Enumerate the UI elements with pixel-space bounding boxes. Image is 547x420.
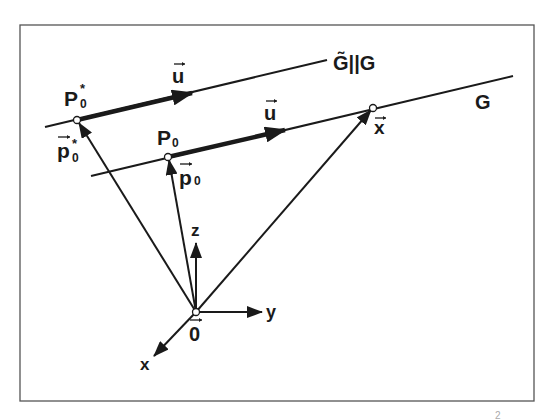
- label-p0: P 0: [157, 126, 179, 150]
- svg-text:x: x: [374, 117, 385, 138]
- svg-text:0: 0: [194, 174, 201, 188]
- svg-text:P: P: [157, 126, 171, 149]
- axis-label-x: x: [140, 355, 150, 374]
- label-vector-p0-star: p 0 *: [57, 135, 79, 165]
- svg-text:G̃||G: G̃||G: [333, 51, 375, 74]
- label-u-lower: u: [264, 99, 277, 124]
- svg-text:p: p: [179, 166, 192, 189]
- svg-text:u: u: [172, 65, 184, 87]
- direction-vector-u-upper: [77, 93, 192, 120]
- svg-text:u: u: [264, 102, 276, 124]
- label-g-tilde-parallel-g: G̃||G: [333, 51, 375, 74]
- point-x: [370, 105, 377, 112]
- point-p0: [165, 154, 172, 161]
- svg-text:0: 0: [189, 323, 200, 345]
- svg-text:*: *: [72, 136, 78, 151]
- svg-text:*: *: [80, 81, 86, 96]
- svg-text:p: p: [57, 139, 70, 162]
- svg-text:P: P: [64, 87, 78, 110]
- label-origin: 0: [189, 318, 202, 345]
- line-g: [91, 76, 513, 176]
- label-u-upper: u: [172, 62, 185, 87]
- axis-label-y: y: [266, 302, 276, 322]
- axis-label-z: z: [191, 221, 200, 240]
- direction-vector-u-lower: [168, 130, 285, 157]
- label-vector-x: x: [374, 116, 386, 138]
- label-vector-p0: p 0: [179, 162, 201, 189]
- label-g: G: [475, 91, 491, 113]
- diagram-frame: [20, 25, 534, 401]
- corner-mark: 2: [495, 410, 501, 420]
- svg-text:0: 0: [172, 136, 179, 150]
- svg-text:0: 0: [72, 151, 79, 165]
- point-p0-star: [74, 117, 81, 124]
- label-p0-star: P 0 *: [64, 81, 87, 111]
- vector-x: [196, 110, 371, 312]
- svg-text:0: 0: [80, 97, 87, 111]
- vector-diagram: G̃||G G P 0 * P 0 p 0 * p 0 u u: [0, 0, 547, 420]
- point-origin: [193, 309, 200, 316]
